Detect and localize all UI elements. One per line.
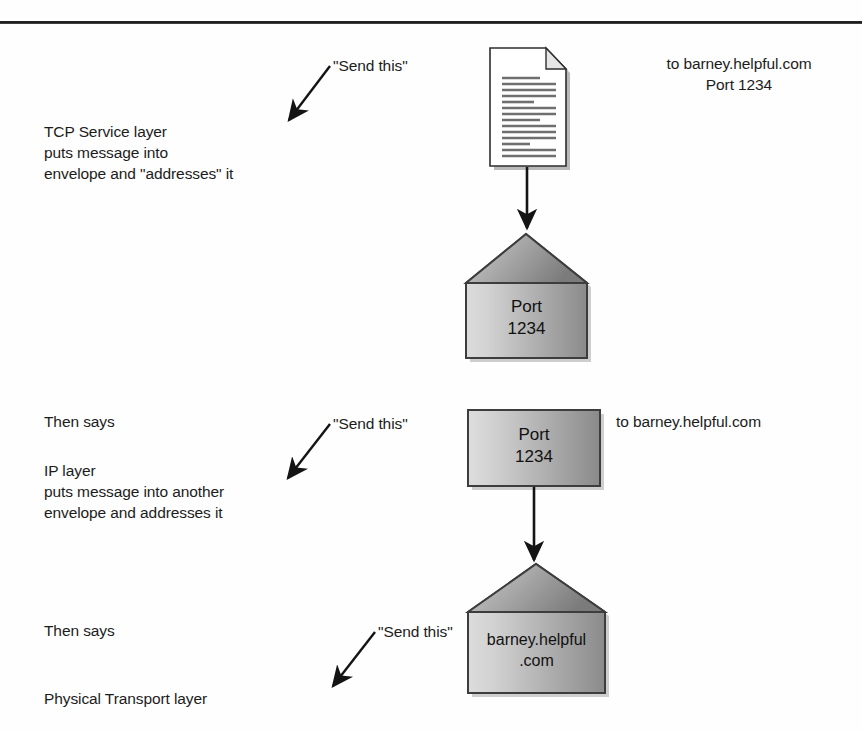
envelope-top-text: Port 1234 — [466, 296, 587, 340]
physical-transport-layer-label: Physical Transport layer — [44, 688, 207, 709]
send-this-pointer-arrow-1 — [289, 66, 330, 120]
envelope-mid-text: Port 1234 — [468, 424, 600, 468]
diagram-canvas: "Send this" TCP Service layer puts messa… — [0, 0, 862, 733]
tcp-service-layer-description: TCP Service layer puts message into enve… — [44, 121, 233, 184]
envelope-bottom-text: barney.helpful .com — [468, 629, 605, 671]
top-divider-rule — [0, 21, 862, 24]
message-document-icon — [490, 48, 570, 170]
send-this-label-1: "Send this" — [333, 55, 408, 76]
send-this-pointer-arrow-3 — [333, 632, 375, 686]
ip-layer-description: IP layer puts message into another envel… — [44, 460, 224, 523]
then-says-label-1: Then says — [44, 411, 115, 432]
send-this-pointer-arrow-2 — [288, 424, 330, 478]
address-label-top: to barney.helpful.com Port 1234 — [616, 53, 862, 95]
send-this-label-3: "Send this" — [378, 621, 453, 642]
then-says-label-2: Then says — [44, 620, 115, 641]
address-label-mid: to barney.helpful.com — [616, 411, 761, 432]
send-this-label-2: "Send this" — [333, 413, 408, 434]
